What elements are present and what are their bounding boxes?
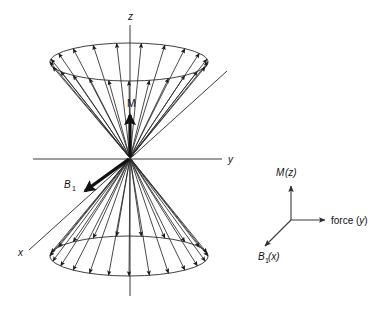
upper-cone-group-ray	[109, 80, 130, 158]
legend-b1-x-suffix: (x)	[268, 251, 280, 262]
legend-m-z-label: M	[276, 167, 285, 178]
lower-cone-group-ray-back	[73, 158, 130, 242]
figure-root: M(z)force (y)B1(x) zyxMB1	[0, 0, 383, 313]
figure-labels: zyxMB1	[17, 11, 234, 258]
lower-cone-group-ray	[73, 158, 130, 270]
magnetization-vector-label: M	[127, 97, 136, 109]
b1-field-vector-subscript: 1	[72, 184, 76, 193]
legend-b1-x-label: B	[258, 251, 265, 262]
lower-cone-group-ray-back	[117, 158, 130, 236]
lower-cone-group-ray	[130, 158, 205, 261]
lower-cone-group-ray	[53, 158, 130, 261]
legend-force-y-label: force (y)	[331, 215, 368, 226]
upper-cone-group-ray-back	[130, 59, 207, 158]
upper-cone-group-ray-back	[51, 59, 130, 158]
upper-cone-group-ray-back	[93, 45, 130, 158]
precession-cone-figure: M(z)force (y)B1(x) zyxMB1	[0, 0, 383, 313]
lower-cone-group-ray-back	[130, 158, 185, 242]
lower-cone-group-ray	[90, 158, 131, 273]
lower-precession-cone	[50, 158, 208, 276]
legend-b1-x-arrow	[265, 220, 291, 246]
coordinate-legend: M(z)force (y)B1(x)	[258, 167, 368, 265]
legend-m-z-label-arg: (z)	[285, 167, 297, 178]
z-axis-label: z	[127, 11, 133, 22]
lower-cone-group-ray-back	[59, 158, 130, 247]
b1-field-vector-label: B	[64, 179, 71, 190]
lower-cone-group-ray	[130, 158, 169, 273]
y-axis-label: y	[227, 154, 234, 165]
x-axis-label: x	[17, 247, 24, 258]
upper-cone-group-ray-back	[130, 49, 185, 158]
upper-cone-group-ray-back	[73, 49, 130, 158]
